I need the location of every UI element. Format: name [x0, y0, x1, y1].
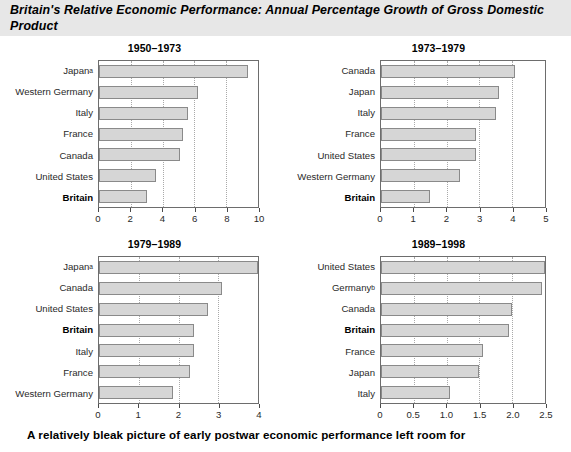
tick-mark [380, 404, 381, 408]
bar-slot [99, 124, 258, 145]
panel-title: 1973–1979 [286, 42, 571, 54]
tick-label: 1 [136, 409, 141, 420]
tick-mark [179, 404, 180, 408]
bar-slot [99, 340, 258, 361]
category-label: Italy [286, 383, 380, 404]
bar-series [99, 61, 258, 207]
chart-panel-1979-1989: 1979–1989 JapanaCanadaUnited StatesBrita… [0, 236, 285, 428]
bar [99, 86, 198, 99]
tick-mark [480, 404, 481, 408]
category-label: Britain [286, 187, 380, 208]
category-label: Canada [0, 145, 98, 166]
tick-mark [259, 208, 260, 212]
value-axis: 00.51.01.52.02.5 [380, 404, 546, 426]
plot-wrap: CanadaJapanItalyFranceUnited StatesWeste… [286, 60, 571, 230]
tick-mark [413, 208, 414, 212]
tick-mark [195, 208, 196, 212]
bar [99, 148, 180, 161]
category-label: France [0, 123, 98, 144]
bar [381, 344, 483, 357]
bar-slot [381, 320, 545, 341]
tick-label: 1.5 [473, 409, 486, 420]
category-label: Germanyb [286, 277, 380, 298]
bar [99, 169, 156, 182]
bar-slot [99, 144, 258, 165]
bar-slot [381, 278, 545, 299]
tick-label: 1.0 [440, 409, 453, 420]
bar-slot [381, 186, 545, 207]
value-axis: 012345 [380, 208, 546, 230]
category-label: Japana [0, 60, 98, 81]
category-label: Japana [0, 256, 98, 277]
bar-slot [381, 257, 545, 278]
category-label: United States [0, 298, 98, 319]
bar [99, 128, 183, 141]
bar [381, 148, 476, 161]
plot-wrap: JapanaWestern GermanyItalyFranceCanadaUn… [0, 60, 285, 230]
tick-label: 8 [224, 213, 229, 224]
category-label: France [0, 362, 98, 383]
tick-label: 2.0 [506, 409, 519, 420]
plot-wrap: United StatesGermanybCanadaBritainFrance… [286, 256, 571, 426]
tick-label: 2 [444, 213, 449, 224]
tick-label: 0 [95, 213, 100, 224]
tick-label: 3 [216, 409, 221, 420]
category-label: United States [286, 145, 380, 166]
tick-mark [380, 208, 381, 212]
bar [381, 128, 476, 141]
bar-slot [99, 103, 258, 124]
bar [99, 107, 188, 120]
tick-label: 0 [377, 409, 382, 420]
category-label: United States [0, 166, 98, 187]
category-label: France [286, 341, 380, 362]
tick-mark [513, 208, 514, 212]
tick-label: 1 [411, 213, 416, 224]
tick-label: 0.5 [407, 409, 420, 420]
category-label: Italy [286, 102, 380, 123]
tick-mark [546, 404, 547, 408]
bar [99, 365, 190, 378]
tick-label: 5 [543, 213, 548, 224]
tick-label: 2.5 [539, 409, 552, 420]
tick-mark [446, 404, 447, 408]
tick-mark [480, 208, 481, 212]
category-label: Britain [286, 319, 380, 340]
bar [99, 386, 173, 399]
bar [99, 282, 222, 295]
figure-title: Britain's Relative Economic Performance:… [10, 3, 562, 34]
bar-slot [381, 165, 545, 186]
tick-mark [98, 208, 99, 212]
bar [381, 365, 479, 378]
plot-wrap: JapanaCanadaUnited StatesBritainItalyFra… [0, 256, 285, 426]
bar [381, 282, 542, 295]
bar [381, 65, 515, 78]
tick-mark [130, 208, 131, 212]
tick-label: 10 [254, 213, 265, 224]
category-label: Canada [286, 60, 380, 81]
bar [381, 261, 545, 274]
category-label: Western Germany [0, 81, 98, 102]
bar [99, 65, 248, 78]
panel-title: 1989–1998 [286, 238, 571, 250]
category-axis-labels: JapanaCanadaUnited StatesBritainItalyFra… [0, 256, 98, 404]
bar-slot [99, 82, 258, 103]
tick-label: 4 [256, 409, 261, 420]
bar [381, 107, 496, 120]
bar [381, 190, 430, 203]
tick-label: 0 [95, 409, 100, 420]
bar-slot [99, 299, 258, 320]
bar-slot [381, 144, 545, 165]
bar-series [381, 61, 545, 207]
chart-panel-1950-1973: 1950–1973 JapanaWestern GermanyItalyFran… [0, 40, 285, 232]
category-label: Canada [286, 298, 380, 319]
bar-slot [99, 361, 258, 382]
tick-mark [162, 208, 163, 212]
bar [381, 303, 512, 316]
tick-mark [513, 404, 514, 408]
plot-area [380, 256, 546, 404]
category-label: Japan [286, 81, 380, 102]
value-axis: 0246810 [98, 208, 259, 230]
category-label: Canada [0, 277, 98, 298]
bar-slot [99, 320, 258, 341]
tick-label: 3 [477, 213, 482, 224]
